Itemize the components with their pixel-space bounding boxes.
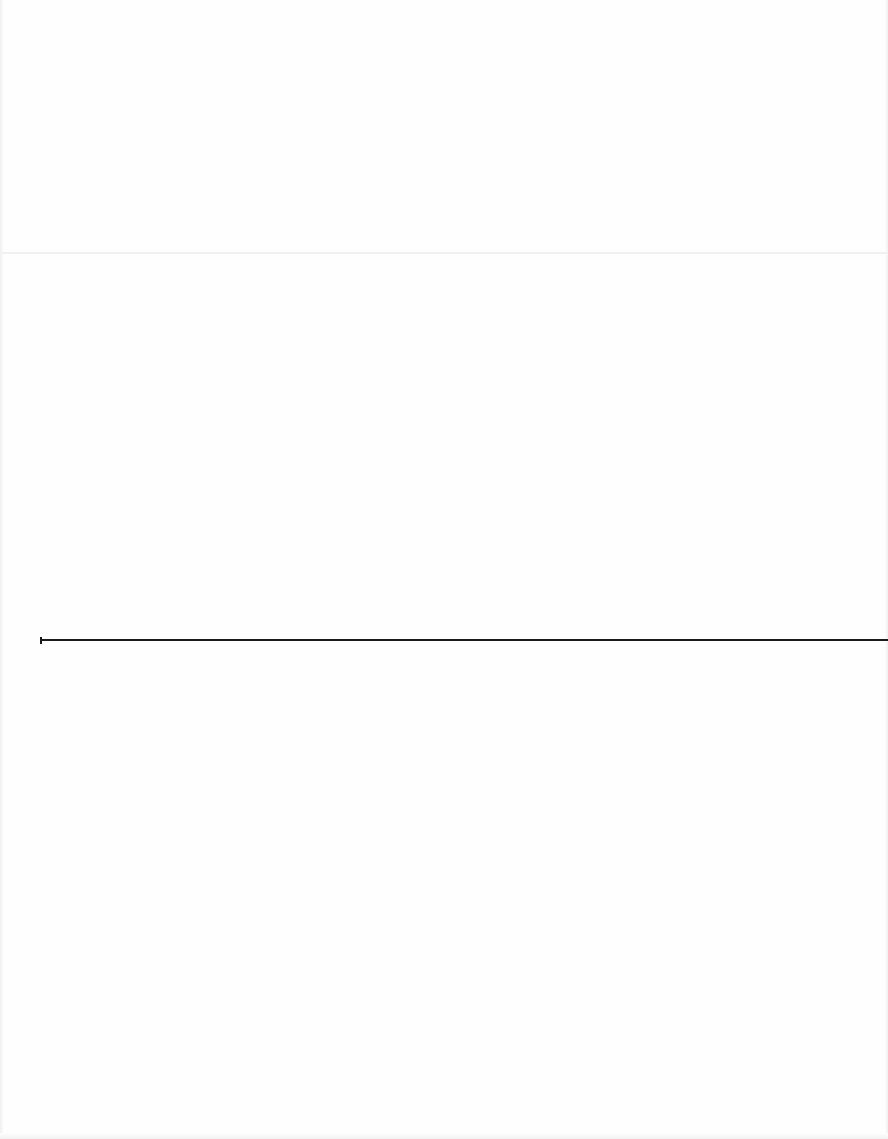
scanned-page <box>0 0 888 1139</box>
fold-crease <box>0 252 888 254</box>
horizontal-rule <box>40 639 888 641</box>
page-bottom-edge-shadow <box>0 1133 888 1139</box>
page-left-edge-shadow <box>0 0 4 1139</box>
